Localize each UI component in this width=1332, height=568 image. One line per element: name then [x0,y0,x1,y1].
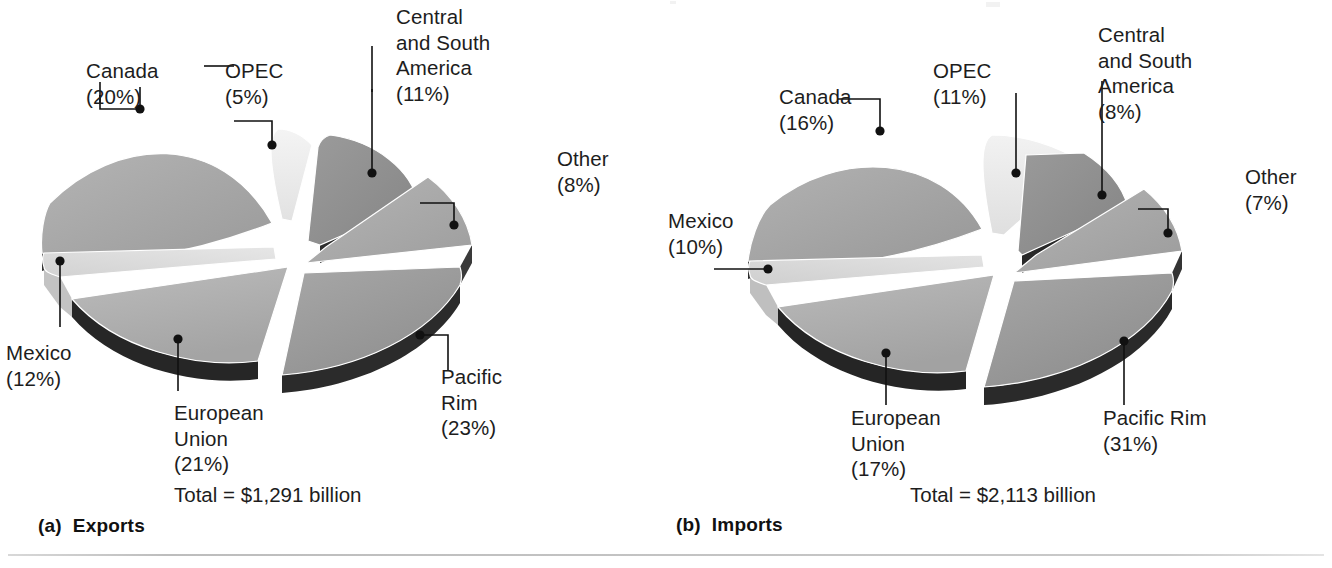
label-other-exports: Other(8%) [557,146,609,197]
dot-pacific-rim [1119,336,1128,345]
scan-artifact-2 [670,1,676,4]
exports-pie-chart [20,95,580,395]
dot-opec [1011,168,1020,177]
imports-panel: Canada(16%) OPEC(11%) Centraland SouthAm… [666,0,1332,568]
label-other-imports: Other(7%) [1245,164,1297,215]
label-pacific-rim-imports: Pacific Rim(31%) [1103,405,1207,456]
label-european-union-imports: EuropeanUnion(17%) [851,405,941,482]
label-csa-imports: Centraland SouthAmerica(8%) [1098,22,1192,124]
label-european-union-exports: EuropeanUnion(21%) [174,400,264,477]
imports-pie-chart [726,105,1286,405]
total-exports: Total = $1,291 billion [174,483,361,507]
scan-artifact-1 [986,2,1000,7]
slice-canada [748,167,982,266]
dot-european-union [173,334,182,343]
dot-other [449,220,458,229]
dot-opec [267,140,276,149]
dot-other [1163,228,1172,237]
dot-csa [1097,190,1106,199]
dot-csa [367,168,376,177]
trade-pie-figure: Canada(20%) OPEC(5%) Centraland SouthAme… [0,0,1332,568]
label-opec-exports: OPEC(5%) [225,58,284,109]
figure-bottom-rule [8,554,1324,556]
dot-mexico [55,256,64,265]
dot-mexico [763,264,772,273]
label-csa-exports: Centraland SouthAmerica(11%) [396,4,490,106]
dot-pacific-rim [415,330,424,339]
label-canada-exports: Canada(20%) [86,58,158,109]
slice-european-union [72,267,288,363]
label-mexico-imports: Mexico(10%) [668,208,734,259]
total-imports: Total = $2,113 billion [910,483,1096,507]
exports-panel: Canada(20%) OPEC(5%) Centraland SouthAme… [0,0,666,568]
label-canada-imports: Canada(16%) [779,84,851,135]
caption-exports: (a) Exports [38,515,145,537]
dot-european-union [881,348,890,357]
slice-opec [271,129,312,221]
dot-canada [875,126,884,135]
caption-imports: (b) Imports [676,514,783,536]
label-opec-imports: OPEC(11%) [933,58,992,109]
label-mexico-exports: Mexico(12%) [6,340,72,391]
label-pacific-rim-exports: PacificRim(23%) [441,364,502,441]
slice-canada [41,154,272,261]
